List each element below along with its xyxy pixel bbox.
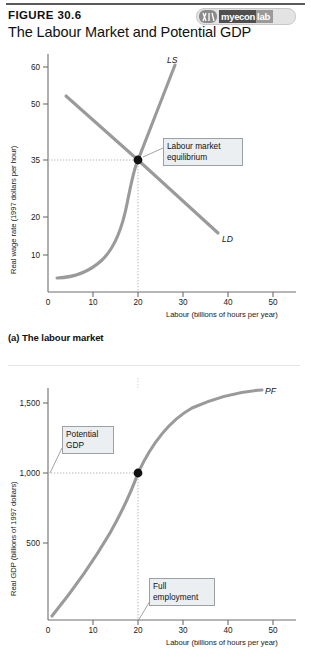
panel-a-xtick-20: 20 [126, 298, 150, 307]
panel-b-ytick-1500: 1,500 [5, 399, 40, 408]
panel-b-x-axis-title: Labour (billions of hours per year) [166, 638, 278, 647]
panel-a-ytick-10: 10 [10, 251, 40, 260]
potential-gdp-plot [0, 378, 311, 663]
panel-b-ytick-500: 500 [5, 539, 40, 548]
y-axis-ticks [43, 67, 48, 255]
panel-a-xtick-40: 40 [216, 298, 240, 307]
full-employment-callout: Full employment [149, 578, 215, 606]
panel-a-xtick-10: 10 [81, 298, 105, 307]
panel-a-x-axis-title: Labour (billions of hours per year) [166, 310, 278, 319]
panel-labour-market: Real wage rate (1997 dollars per hour) 1… [0, 44, 311, 344]
equilibrium-callout: Labour market equilibrium [163, 138, 243, 166]
equilibrium-point-marker [134, 156, 143, 165]
panel-a-ytick-20: 20 [10, 213, 40, 222]
panel-a-ytick-60: 60 [10, 63, 40, 72]
panel-b-xtick-40: 40 [216, 626, 240, 635]
potential-gdp-callout-leader [50, 448, 62, 473]
panel-b-ytick-1000: 1,000 [5, 469, 40, 478]
panel-b-xtick-0: 0 [36, 626, 60, 635]
myeconlab-logo-icon [199, 10, 217, 23]
panel-a-caption: (a) The labour market [8, 332, 103, 343]
production-function-curve-label: PF [265, 386, 276, 396]
panel-a-xtick-0: 0 [36, 298, 60, 307]
panel-divider [8, 365, 300, 366]
panel-potential-gdp: Real GDP (billions of 1997 dollars) 500 … [0, 378, 311, 663]
y-axis-ticks [43, 403, 48, 543]
panel-a-ytick-50: 50 [10, 100, 40, 109]
potential-gdp-callout: Potential GDP [62, 426, 114, 454]
myeconlab-badge[interactable]: myeconlab [196, 8, 296, 25]
header-divider-rule [6, 3, 305, 5]
panel-b-xtick-50: 50 [261, 626, 285, 635]
x-axis-ticks [93, 620, 273, 625]
panel-a-ytick-35: 35 [10, 156, 40, 165]
myeconlab-wordmark: myeconlab [219, 10, 273, 23]
panel-b-xtick-10: 10 [81, 626, 105, 635]
panel-b-xtick-20: 20 [126, 626, 150, 635]
panel-a-xtick-50: 50 [261, 298, 285, 307]
labour-supply-curve [57, 65, 175, 278]
potential-gdp-point-marker [134, 469, 143, 478]
labour-demand-curve-label: LD [222, 234, 233, 244]
equilibrium-callout-leader [143, 148, 163, 157]
figure-title: The Labour Market and Potential GDP [8, 23, 304, 42]
labour-supply-curve-label: LS [167, 55, 178, 65]
panel-a-xtick-30: 30 [171, 298, 195, 307]
myeconlab-word-dark: myecon [219, 10, 256, 23]
x-axis-ticks [93, 292, 273, 297]
myeconlab-word-light: lab [256, 10, 273, 23]
panel-b-xtick-30: 30 [171, 626, 195, 635]
